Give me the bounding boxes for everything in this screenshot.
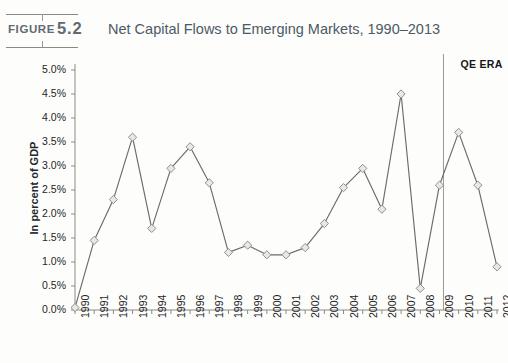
data-point-marker <box>378 205 386 213</box>
x-axis-tick-label: 2011 <box>482 295 494 318</box>
x-axis-tick-label: 1992 <box>117 295 129 318</box>
figure-page: FIGURE 5.2 Net Capital Flows to Emerging… <box>0 0 508 363</box>
x-axis-tick-label: 2006 <box>386 295 398 318</box>
x-axis-tick-label: 1991 <box>98 295 110 318</box>
y-axis-tick-label: 3.5% <box>22 135 66 147</box>
y-axis-tick-label: 0.5% <box>22 279 66 291</box>
header-tick-top <box>42 14 43 21</box>
y-axis-tick-label: 1.5% <box>22 231 66 243</box>
data-point-marker <box>244 241 252 249</box>
figure-number: 5.2 <box>57 19 83 38</box>
x-axis-tick-label: 1993 <box>137 295 149 318</box>
data-point-marker <box>474 181 482 189</box>
data-point-marker <box>128 133 136 141</box>
y-axis-tick-label: 3.0% <box>22 159 66 171</box>
qe-era-annotation: QE ERA <box>460 58 502 70</box>
data-point-marker <box>493 263 501 271</box>
source-note <box>6 354 506 363</box>
x-axis-tick-label: 2001 <box>290 295 302 318</box>
x-axis-tick-label: 1995 <box>175 295 187 318</box>
x-axis-tick-label: 1994 <box>156 295 168 318</box>
chart-container: In percent of GDP 0.0%0.5%1.0%1.5%2.0%2.… <box>0 52 508 352</box>
data-point-marker <box>205 179 213 187</box>
header-tick-bottom <box>42 41 43 48</box>
x-axis-tick-label: 1997 <box>213 295 225 318</box>
x-axis-tick-label: 2005 <box>367 295 379 318</box>
y-axis-tick-label: 2.0% <box>22 207 66 219</box>
y-axis-tick-label: 0.0% <box>22 303 66 315</box>
data-point-marker <box>455 128 463 136</box>
data-point-marker <box>397 90 405 98</box>
data-point-marker <box>263 251 271 259</box>
x-axis-tick-label: 1990 <box>79 295 91 318</box>
figure-label: FIGURE <box>8 23 55 35</box>
x-axis-tick-label: 1998 <box>232 295 244 318</box>
x-axis-tick-label: 2004 <box>348 295 360 318</box>
figure-header: FIGURE 5.2 Net Capital Flows to Emerging… <box>0 14 508 48</box>
data-point-marker <box>416 284 424 292</box>
data-point-marker <box>282 251 290 259</box>
x-axis-tick-label: 1999 <box>252 295 264 318</box>
data-point-marker <box>109 196 117 204</box>
x-axis-tick-label: 2007 <box>405 295 417 318</box>
x-axis-tick-label: 2000 <box>271 295 283 318</box>
data-point-marker <box>148 224 156 232</box>
x-axis-tick-label: 2002 <box>309 295 321 318</box>
y-axis-tick-label: 1.0% <box>22 255 66 267</box>
x-axis-tick-label: 2009 <box>443 295 455 318</box>
figure-title: Net Capital Flows to Emerging Markets, 1… <box>108 21 440 37</box>
y-axis-tick-label: 2.5% <box>22 183 66 195</box>
x-axis-tick-label: 2010 <box>463 295 475 318</box>
x-axis-tick-label: 2012 <box>501 295 508 318</box>
x-axis-tick-label: 2008 <box>424 295 436 318</box>
data-point-marker <box>90 236 98 244</box>
y-axis-tick-label: 4.0% <box>22 111 66 123</box>
data-point-marker <box>224 248 232 256</box>
y-axis-tick-label: 5.0% <box>22 63 66 75</box>
data-point-marker <box>435 181 443 189</box>
x-axis-tick-label: 1996 <box>194 295 206 318</box>
y-axis-tick-label: 4.5% <box>22 87 66 99</box>
x-axis-tick-label: 2003 <box>328 295 340 318</box>
